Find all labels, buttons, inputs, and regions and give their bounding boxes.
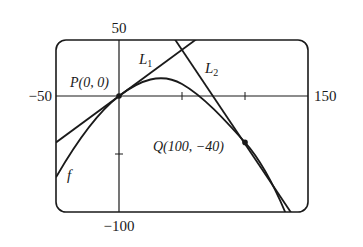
point-p-label: P(0, 0) — [69, 75, 109, 91]
y-min-label: −100 — [104, 218, 135, 234]
line-l1-subscript: 1 — [147, 58, 152, 69]
curve-f-label: f — [67, 167, 73, 183]
line-l2-subscript: 2 — [213, 67, 218, 78]
viewing-window-frame — [56, 40, 308, 212]
x-max-label: 150 — [314, 88, 337, 104]
point-p — [116, 93, 122, 99]
y-max-label: 50 — [112, 20, 127, 36]
point-p-text: P(0, 0) — [69, 75, 109, 91]
graph: 50 −100 −50 150 P(0, 0) Q(100, −40) f L1… — [0, 0, 363, 247]
line-l1-label: L1 — [138, 51, 152, 69]
point-q-label: Q(100, −40) — [153, 139, 224, 155]
point-q — [242, 140, 248, 146]
x-min-label: −50 — [29, 88, 52, 104]
point-q-text: Q(100, −40) — [153, 139, 224, 155]
line-l2-label: L2 — [204, 60, 218, 78]
line-l2-letter: L — [204, 60, 213, 76]
line-l1-letter: L — [138, 51, 147, 67]
